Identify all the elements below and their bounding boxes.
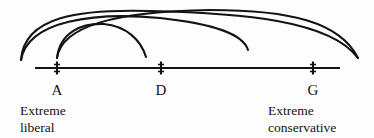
ideological-scale-diagram: A D G Extreme liberal Extreme conservati… (0, 0, 374, 138)
tick-label-a: A (47, 83, 67, 98)
tick-label-g: G (303, 83, 323, 98)
endpoint-label-right-line1: Extreme (268, 103, 314, 118)
endpoint-label-left-line2: liberal (20, 119, 66, 136)
endpoint-label-left-line1: Extreme (20, 103, 66, 118)
endpoint-label-right: Extreme conservative (268, 102, 336, 137)
arc-a-to-d-valley (57, 24, 146, 58)
endpoint-label-right-line2: conservative (268, 119, 336, 136)
endpoint-label-left: Extreme liberal (20, 102, 66, 137)
tick-label-d: D (151, 83, 171, 98)
